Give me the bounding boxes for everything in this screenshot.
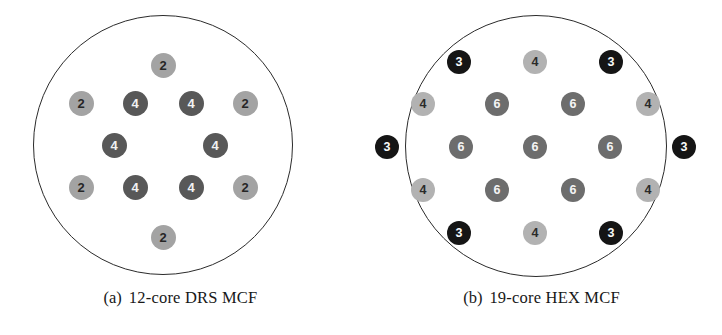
- fiber-core: 4: [123, 91, 148, 116]
- fiber-core: 4: [523, 221, 547, 245]
- subfigure-caption-text-b: 19-core HEX MCF: [489, 288, 619, 307]
- fiber-core: 2: [151, 53, 176, 78]
- fiber-core: 6: [485, 178, 509, 202]
- fiber-core: 2: [233, 175, 258, 200]
- fiber-core: 4: [123, 175, 148, 200]
- fiber-core: 4: [523, 50, 547, 74]
- fiber-core: 3: [447, 50, 471, 74]
- subfigure-caption-b: (b)19-core HEX MCF: [361, 288, 722, 308]
- fiber-core: 6: [485, 92, 509, 116]
- fiber-core: 2: [233, 91, 258, 116]
- figure-row: 224424424422 (a)12-core DRS MCF 34346643…: [0, 0, 722, 335]
- subfigure-tag-b: (b): [463, 288, 482, 307]
- fiber-core: 4: [636, 178, 660, 202]
- fiber-core: 2: [151, 225, 176, 250]
- fiber-core: 3: [672, 135, 696, 159]
- fiber-core: 4: [179, 175, 204, 200]
- subfigure-b-19-core-hex-mcf: 3434664366634664343 (b)19-core HEX MCF: [361, 0, 722, 335]
- fiber-core: 4: [203, 133, 228, 158]
- fiber-core: 2: [69, 91, 94, 116]
- subfigure-a-12-core-drs-mcf: 224424424422 (a)12-core DRS MCF: [0, 0, 361, 335]
- subfigure-caption-text-a: 12-core DRS MCF: [129, 288, 258, 307]
- subfigure-tag-a: (a): [104, 288, 122, 307]
- fiber-core: 4: [102, 133, 127, 158]
- fiber-core: 4: [636, 92, 660, 116]
- fiber-core: 6: [561, 92, 585, 116]
- fiber-core: 3: [447, 221, 471, 245]
- fiber-core: 3: [599, 50, 623, 74]
- fiber-core: 4: [179, 91, 204, 116]
- fiber-core: 4: [411, 92, 435, 116]
- fiber-core: 6: [598, 135, 622, 159]
- fiber-core: 6: [449, 135, 473, 159]
- fiber-core: 2: [69, 175, 94, 200]
- subfigure-caption-a: (a)12-core DRS MCF: [0, 288, 361, 308]
- fiber-core: 6: [523, 135, 547, 159]
- fiber-core: 3: [375, 135, 399, 159]
- fiber-core: 3: [599, 221, 623, 245]
- fiber-core: 6: [561, 178, 585, 202]
- fiber-core: 4: [411, 178, 435, 202]
